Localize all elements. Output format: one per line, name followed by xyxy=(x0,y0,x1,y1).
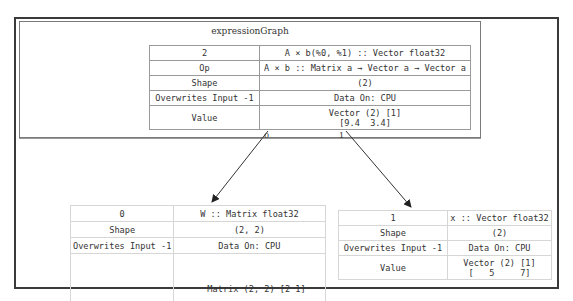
edge-2-to-0: 0 xyxy=(212,131,269,202)
arrow-icon xyxy=(346,131,411,207)
edge-2-to-1: 1 xyxy=(339,131,411,207)
edge-label: 1 xyxy=(339,131,344,140)
edge-label: 0 xyxy=(264,131,269,140)
edges-layer: 0 1 xyxy=(0,0,573,301)
arrow-icon xyxy=(212,131,268,202)
